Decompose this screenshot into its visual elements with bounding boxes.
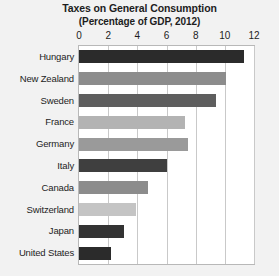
category-label: France: [45, 116, 74, 127]
x-tick-label: 6: [164, 30, 170, 41]
bar-row: [79, 225, 254, 238]
category-label: Switzerland: [27, 204, 74, 215]
category-label: United States: [19, 247, 74, 258]
bar-row: [79, 50, 254, 63]
bar: [79, 247, 111, 260]
chart-title: Taxes on General Consumption: [0, 2, 279, 15]
x-axis-tick-labels: 024681012: [0, 30, 279, 44]
bar: [79, 116, 185, 129]
x-tick-label: 12: [248, 30, 259, 41]
x-tick-label: 2: [105, 30, 111, 41]
category-label: Germany: [36, 138, 74, 149]
category-label: Japan: [49, 225, 74, 236]
category-label: Canada: [42, 182, 74, 193]
bar-row: [79, 116, 254, 129]
category-label: Italy: [57, 160, 74, 171]
category-label: Sweden: [41, 95, 74, 106]
category-label: New Zealand: [20, 73, 74, 84]
bar-row: [79, 181, 254, 194]
bars-layer: [79, 46, 254, 264]
y-axis-category-labels: HungaryNew ZealandSwedenFranceGermanyIta…: [0, 46, 74, 264]
x-tick-label: 0: [76, 30, 82, 41]
bar-row: [79, 138, 254, 151]
category-label: Hungary: [39, 51, 74, 62]
x-tick-label: 8: [193, 30, 199, 41]
bar: [79, 138, 188, 151]
bar-chart: Taxes on General Consumption (Percentage…: [0, 0, 279, 276]
x-tick-label: 10: [219, 30, 230, 41]
gridline: [254, 46, 255, 264]
bar: [79, 94, 216, 107]
bar-row: [79, 94, 254, 107]
bar-row: [79, 72, 254, 85]
chart-subtitle: (Percentage of GDP, 2012): [0, 15, 279, 28]
bar-row: [79, 159, 254, 172]
bar: [79, 159, 167, 172]
x-tick-label: 4: [135, 30, 141, 41]
bar: [79, 203, 136, 216]
bar-row: [79, 203, 254, 216]
bar: [79, 72, 226, 85]
bar: [79, 181, 148, 194]
chart-title-block: Taxes on General Consumption (Percentage…: [0, 2, 279, 28]
bar: [79, 225, 124, 238]
bar: [79, 50, 244, 63]
bar-row: [79, 247, 254, 260]
